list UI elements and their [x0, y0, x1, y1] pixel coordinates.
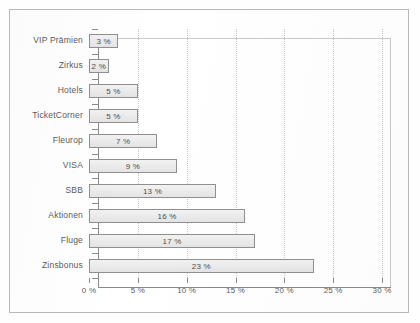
- x-tick-mark-20: [284, 278, 285, 283]
- x-tick-mark-15: [236, 278, 237, 283]
- y-tick-mark: [92, 129, 98, 130]
- x-tick-label: 5 %: [131, 286, 145, 295]
- category-label: Zinsbonus: [10, 260, 83, 270]
- x-tick-label: 15 %: [226, 286, 245, 295]
- x-tick-mark-30: [382, 278, 383, 283]
- bar-value-label: 7 %: [116, 137, 130, 146]
- bar-value-label: 23 %: [192, 261, 211, 270]
- bar-value-label: 17 %: [162, 236, 181, 245]
- gridline-20: [284, 29, 285, 278]
- y-tick-mark: [92, 203, 98, 204]
- y-tick-mark: [92, 154, 98, 155]
- category-label: SBB: [10, 185, 83, 195]
- x-tick-mark-0: [89, 278, 90, 283]
- category-label: Aktionen: [10, 210, 83, 220]
- x-tick-label: 10 %: [177, 286, 196, 295]
- x-tick-mark-5: [138, 278, 139, 283]
- y-tick-mark: [92, 104, 98, 105]
- category-label: Fluge: [10, 235, 83, 245]
- bar-value-label: 3 %: [96, 37, 110, 46]
- y-tick-mark: [92, 253, 98, 254]
- category-label: TicketCorner: [10, 110, 83, 120]
- bar-value-label: 16 %: [158, 211, 177, 220]
- y-tick-mark: [92, 178, 98, 179]
- y-tick-mark: [92, 228, 98, 229]
- gridline-30: [382, 29, 383, 278]
- x-tick-label: 25 %: [324, 286, 343, 295]
- bar-chart-figure: 0 %5 %10 %15 %20 %25 %30 % VIP PrämienZi…: [0, 0, 420, 323]
- x-tick-mark-25: [333, 278, 334, 283]
- gridline-25: [333, 29, 334, 278]
- x-tick-label: 20 %: [275, 286, 294, 295]
- category-label: Hotels: [10, 85, 83, 95]
- category-label: VISA: [10, 160, 83, 170]
- y-tick-mark: [92, 29, 98, 30]
- x-tick-label: 0 %: [82, 286, 96, 295]
- y-tick-mark: [92, 278, 98, 279]
- bar-value-label: 2 %: [92, 62, 106, 71]
- y-tick-mark: [92, 79, 98, 80]
- chart-outer-frame: 0 %5 %10 %15 %20 %25 %30 % VIP PrämienZi…: [9, 9, 409, 313]
- category-label: VIP Prämien: [10, 35, 83, 45]
- y-tick-mark: [92, 54, 98, 55]
- bar-value-label: 5 %: [106, 112, 120, 121]
- category-label: Fleurop: [10, 135, 83, 145]
- bar-value-label: 9 %: [126, 161, 140, 170]
- bar-value-label: 13 %: [143, 186, 162, 195]
- bar-value-label: 5 %: [106, 87, 120, 96]
- category-label: Zirkus: [10, 60, 83, 70]
- x-tick-mark-10: [187, 278, 188, 283]
- x-tick-label: 30 %: [372, 286, 391, 295]
